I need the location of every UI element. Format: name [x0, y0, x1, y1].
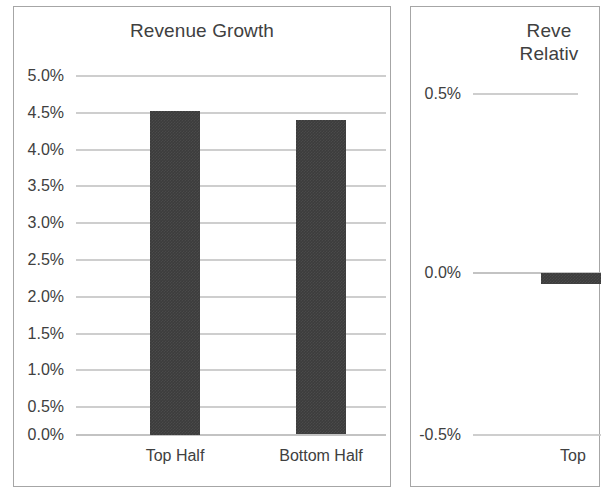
ytick-label-0.0-relative: 0.0% — [425, 265, 461, 281]
chart-title-revenue-growth-relative: Reve Relativ — [439, 19, 605, 65]
bar-top-half[interactable] — [150, 111, 200, 435]
chart-title-line-1: Reve — [439, 19, 605, 42]
plot-area-revenue-growth: 5.0% 4.5% 4.0% 3.5% 3.0% 2.5% 2.0% 1.5% … — [76, 69, 386, 437]
xlabel-bottom-half: Bottom Half — [279, 447, 363, 465]
gridline-0.0-baseline — [76, 434, 386, 436]
ytick-label-5.0: 5.0% — [28, 68, 64, 84]
ytick-label-1.5: 1.5% — [28, 326, 64, 342]
chart-title-line-2: Relativ — [439, 42, 605, 65]
ytick-label-3.0: 3.0% — [28, 215, 64, 231]
ytick-label-0.0: 0.0% — [28, 427, 64, 443]
ytick-label-0.5: 0.5% — [28, 399, 64, 415]
ytick-label--0.5-relative: -0.5% — [419, 427, 461, 443]
chart-panel-revenue-growth-relative: Reve Relativ 0.5% 0.0% -0.5% Top — [410, 6, 600, 487]
gridline-0.5-relative — [473, 93, 578, 95]
plot-area-revenue-growth-relative: 0.5% 0.0% -0.5% Top — [473, 69, 605, 437]
gridline--0.5-relative — [473, 434, 601, 436]
chart-title-revenue-growth: Revenue Growth — [14, 19, 390, 42]
bar-top-relative[interactable] — [541, 273, 601, 284]
ytick-label-1.0: 1.0% — [28, 362, 64, 378]
ytick-label-2.5: 2.5% — [28, 252, 64, 268]
gridline-5.0 — [76, 75, 386, 77]
ytick-label-2.0: 2.0% — [28, 289, 64, 305]
xlabel-top-half: Top Half — [146, 447, 205, 465]
gridline-4.5 — [76, 112, 386, 114]
chart-panel-revenue-growth: Revenue Growth 5.0% 4.5% 4.0% 3.5% 3.0% … — [13, 6, 391, 487]
bar-bottom-half[interactable] — [296, 120, 346, 434]
xlabel-top-relative: Top — [560, 447, 586, 465]
ytick-label-4.5: 4.5% — [28, 105, 64, 121]
ytick-label-4.0: 4.0% — [28, 142, 64, 158]
ytick-label-3.5: 3.5% — [28, 178, 64, 194]
ytick-label-0.5-relative: 0.5% — [425, 86, 461, 102]
